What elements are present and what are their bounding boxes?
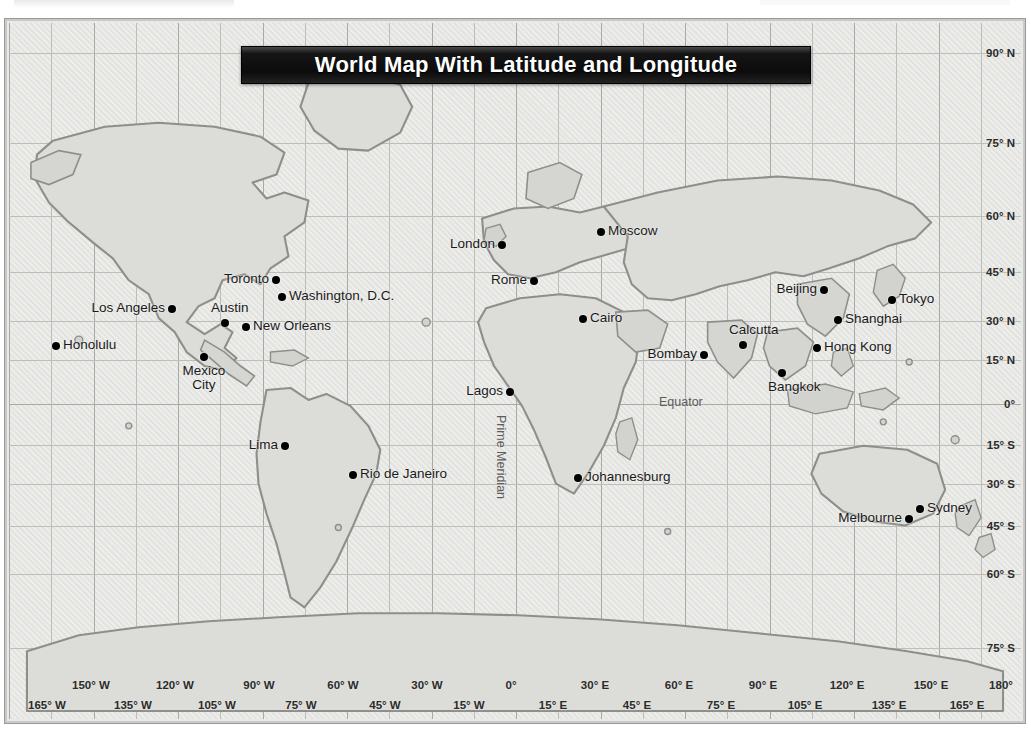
city-label: Sydney (927, 501, 972, 515)
latitude-label: 60° N (986, 210, 1015, 222)
latitude-label: 75° S (987, 642, 1015, 654)
city-label: Shanghai (845, 312, 902, 326)
latitude-label: 15° N (986, 354, 1015, 366)
longitude-label: 180° (989, 679, 1013, 691)
map-pin-icon (888, 296, 896, 304)
city-label: Johannesburg (585, 470, 671, 484)
world-map-figure: Equator Prime Meridian HonoluluLos Angel… (4, 18, 1026, 724)
latitude-label: 90° N (986, 47, 1015, 59)
city-label: Beijing (776, 282, 817, 296)
longitude-label: 15° W (453, 699, 484, 711)
city-label: Bangkok (768, 380, 821, 394)
longitude-label: 165° E (950, 699, 985, 711)
city-label: MexicoCity (183, 364, 226, 392)
map-pin-icon (200, 353, 208, 361)
map-pin-icon (278, 293, 286, 301)
latitude-label: 60° S (987, 568, 1015, 580)
longitude-label: 105° W (198, 699, 236, 711)
city-label: Austin (211, 301, 249, 315)
longitude-label: 90° W (243, 679, 274, 691)
city-label: Lima (249, 438, 278, 452)
longitude-label: 120° W (156, 679, 194, 691)
city-label: Bombay (647, 347, 697, 361)
landmass-layer (9, 23, 1021, 719)
map-title-banner: World Map With Latitude and Longitude (241, 46, 811, 84)
prime-meridian-label: Prime Meridian (494, 415, 508, 499)
city-label: Honolulu (63, 338, 116, 352)
map-pin-icon (739, 341, 747, 349)
city-label: Tokyo (899, 292, 934, 306)
longitude-label: 30° W (411, 679, 442, 691)
city-label: Melbourne (838, 511, 902, 525)
map-pin-icon (530, 277, 538, 285)
city-label: Cairo (590, 311, 622, 325)
longitude-label: 135° W (114, 699, 152, 711)
map-pin-icon (579, 315, 587, 323)
latitude-label: 75° N (986, 137, 1015, 149)
latitude-label: 45° S (987, 520, 1015, 532)
longitude-label: 120° E (830, 679, 865, 691)
longitude-label: 165° W (28, 699, 66, 711)
longitude-label: 30° E (581, 679, 609, 691)
map-pin-icon (778, 369, 786, 377)
longitude-label: 135° E (872, 699, 907, 711)
city-label: Los Angeles (91, 301, 165, 315)
city-label: London (450, 237, 495, 251)
longitude-label: 45° E (623, 699, 651, 711)
city-label: Washington, D.C. (289, 289, 394, 303)
map-pin-icon (834, 316, 842, 324)
map-pin-icon (281, 442, 289, 450)
map-pin-icon (221, 319, 229, 327)
map-pin-icon (916, 505, 924, 513)
city-label: Hong Kong (824, 340, 892, 354)
map-pin-icon (498, 241, 506, 249)
longitude-label: 60° E (665, 679, 693, 691)
longitude-label: 75° W (285, 699, 316, 711)
latitude-label: 45° N (986, 266, 1015, 278)
latitude-label: 30° S (987, 478, 1015, 490)
latitude-label: 15° S (987, 439, 1015, 451)
longitude-label: 150° E (914, 679, 949, 691)
longitude-label: 75° E (707, 699, 735, 711)
map-pin-icon (597, 228, 605, 236)
map-pin-icon (242, 323, 250, 331)
map-pin-icon (700, 351, 708, 359)
equator-label: Equator (659, 395, 703, 409)
map-pin-icon (168, 305, 176, 313)
city-label: Calcutta (729, 323, 779, 337)
map-pin-icon (813, 344, 821, 352)
city-label: Rome (491, 273, 527, 287)
map-pin-icon (905, 515, 913, 523)
map-pin-icon (272, 276, 280, 284)
map-pin-icon (820, 286, 828, 294)
city-label: Toronto (224, 272, 269, 286)
city-label: New Orleans (253, 319, 331, 333)
cropped-toolbar-fragment-right (760, 0, 1010, 5)
longitude-label: 45° W (369, 699, 400, 711)
longitude-label: 0° (506, 679, 517, 691)
city-label: Moscow (608, 224, 658, 238)
city-label: Rio de Janeiro (360, 467, 447, 481)
latitude-label: 0° (1004, 398, 1015, 410)
map-pin-icon (349, 471, 357, 479)
map-title: World Map With Latitude and Longitude (315, 52, 737, 78)
longitude-label: 90° E (749, 679, 777, 691)
longitude-label: 60° W (327, 679, 358, 691)
map-canvas: Equator Prime Meridian HonoluluLos Angel… (9, 23, 1021, 719)
map-pin-icon (506, 388, 514, 396)
longitude-label: 150° W (72, 679, 110, 691)
latitude-label: 30° N (986, 315, 1015, 327)
longitude-label: 15° E (539, 699, 567, 711)
longitude-label: 105° E (788, 699, 823, 711)
cropped-toolbar-fragment (14, 0, 234, 7)
map-pin-icon (574, 474, 582, 482)
city-label: Lagos (466, 384, 503, 398)
map-pin-icon (52, 342, 60, 350)
